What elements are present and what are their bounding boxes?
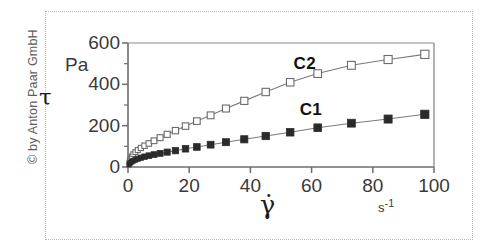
data-point-c1-22[interactable] [347, 119, 355, 127]
data-point-c1-11[interactable] [157, 150, 163, 156]
series-line-c1 [129, 114, 425, 165]
x-tick-label-0: 0 [105, 176, 151, 195]
y-tick-label-600: 600 [62, 33, 120, 52]
data-point-c1-17[interactable] [222, 139, 229, 146]
data-point-c2-20[interactable] [286, 79, 294, 87]
flow-curve-chart: 600 400 200 0 Pa τ 0 20 40 60 80 100 s-1… [0, 0, 497, 252]
series-layer [127, 50, 429, 167]
data-point-c2-17[interactable] [222, 105, 229, 112]
data-point-c1-13[interactable] [172, 148, 178, 154]
data-point-c1-18[interactable] [241, 136, 248, 143]
y-tick-label-200: 200 [62, 116, 120, 135]
data-point-c2-22[interactable] [347, 61, 355, 69]
series-label-c1: C1 [300, 101, 322, 118]
data-point-c1-12[interactable] [164, 149, 170, 155]
data-point-c1-15[interactable] [194, 144, 201, 151]
x-axis-unit: s-1 [378, 197, 394, 215]
y-tick-label-0: 0 [62, 157, 120, 176]
data-point-c2-13[interactable] [172, 127, 178, 133]
data-point-c1-16[interactable] [207, 141, 214, 148]
x-tick-label-100: 100 [411, 176, 457, 195]
x-axis-unit-exponent: -1 [385, 197, 395, 209]
y-axis-symbol-tau: τ [39, 86, 52, 109]
data-point-c2-15[interactable] [194, 118, 201, 125]
data-point-c1-10[interactable] [151, 152, 157, 158]
data-point-c2-12[interactable] [164, 131, 170, 137]
data-point-c2-18[interactable] [241, 97, 248, 104]
series-label-c2: C2 [294, 55, 316, 72]
series-line-c2 [129, 54, 425, 162]
x-tick-label-60: 60 [289, 176, 335, 195]
data-point-c2-14[interactable] [182, 123, 188, 129]
y-axis-unit: Pa [65, 54, 88, 76]
y-tick-label-400: 400 [62, 74, 120, 93]
x-tick-label-80: 80 [350, 176, 396, 195]
data-point-c1-20[interactable] [286, 129, 294, 137]
data-point-c2-16[interactable] [207, 112, 214, 119]
x-tick-label-20: 20 [166, 176, 212, 195]
data-point-c1-24[interactable] [421, 110, 429, 118]
data-point-c2-23[interactable] [384, 56, 392, 64]
data-point-c2-19[interactable] [262, 88, 269, 95]
x-axis-symbol-gamma-dot: γ̇ [260, 192, 276, 218]
data-point-c1-21[interactable] [314, 124, 322, 132]
data-point-c2-24[interactable] [421, 50, 429, 58]
data-point-c1-23[interactable] [384, 115, 392, 123]
data-point-c1-19[interactable] [262, 132, 269, 139]
data-point-c2-11[interactable] [157, 135, 163, 141]
data-point-c2-10[interactable] [151, 138, 157, 144]
data-point-c1-14[interactable] [182, 146, 188, 152]
